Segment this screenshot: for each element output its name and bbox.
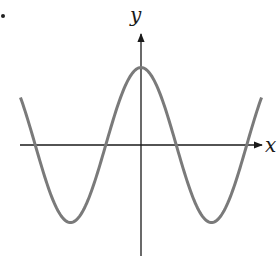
y-axis-label: y (129, 3, 142, 27)
x-axis-label: x (265, 133, 276, 157)
graph: y x (0, 0, 277, 258)
